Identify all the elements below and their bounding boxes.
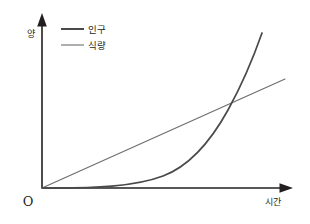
origin-label: O bbox=[23, 194, 34, 209]
legend-label-population: 인구 bbox=[88, 24, 106, 35]
y-axis-label: 양 bbox=[27, 29, 35, 39]
x-axis-label: 시간 bbox=[265, 197, 281, 207]
chart-container: 양 시간 O 인구 식량 bbox=[0, 0, 310, 224]
malthusian-population-food-chart: 양 시간 O 인구 식량 bbox=[0, 0, 310, 224]
chart-background bbox=[0, 0, 310, 224]
legend-label-food: 식량 bbox=[88, 40, 106, 51]
